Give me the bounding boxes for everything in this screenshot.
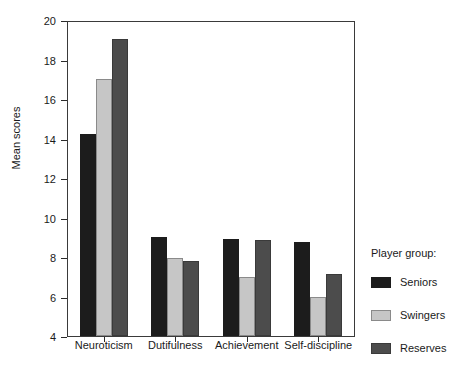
legend-label: Reserves [400, 342, 446, 354]
legend-label: Swingers [400, 309, 445, 321]
bar-reserves [183, 261, 199, 336]
x-tick-mark [104, 337, 105, 342]
legend-title: Player group: [371, 247, 457, 259]
bar-swingers [96, 79, 112, 336]
x-tick-mark [175, 337, 176, 342]
bar-groups [68, 22, 354, 336]
legend-item: Reserves [371, 342, 457, 354]
bar-reserves [326, 274, 342, 336]
y-axis-ticks: 201816141210864 [22, 0, 56, 372]
legend-items: SeniorsSwingersReserves [371, 276, 457, 354]
y-axis-label: Mean scores [10, 78, 22, 198]
bar-chart-figure: Mean scores 201816141210864 NeuroticismD… [0, 0, 458, 372]
bar-reserves [112, 39, 128, 336]
bar-swingers [239, 277, 255, 336]
legend-item: Seniors [371, 276, 457, 288]
y-tick-label: 18 [22, 55, 56, 67]
bar-seniors [294, 242, 310, 336]
y-tick-label: 16 [22, 94, 56, 106]
y-tick-label: 14 [22, 134, 56, 146]
bar-group [80, 22, 128, 336]
bar-swingers [167, 258, 183, 336]
bar-seniors [80, 134, 96, 336]
bar-seniors [151, 237, 167, 336]
bar-swingers [310, 297, 326, 337]
bar-reserves [255, 240, 271, 336]
y-tick-label: 8 [22, 252, 56, 264]
bar-group [223, 22, 271, 336]
legend-swatch-reserves [371, 343, 391, 354]
y-tick-label: 20 [22, 15, 56, 27]
y-tick-label: 6 [22, 292, 56, 304]
legend-label: Seniors [400, 276, 437, 288]
y-tick-label: 12 [22, 173, 56, 185]
y-tick-mark [61, 337, 67, 338]
bar-seniors [223, 239, 239, 336]
legend: Player group: SeniorsSwingersReserves [371, 247, 457, 372]
legend-item: Swingers [371, 309, 457, 321]
legend-swatch-swingers [371, 310, 391, 321]
x-tick-mark [318, 337, 319, 342]
bar-group [151, 22, 199, 336]
y-tick-label: 4 [22, 331, 56, 343]
bar-group [294, 22, 342, 336]
plot-area [67, 21, 355, 337]
y-tick-label: 10 [22, 213, 56, 225]
legend-swatch-seniors [371, 277, 391, 288]
x-tick-mark [247, 337, 248, 342]
